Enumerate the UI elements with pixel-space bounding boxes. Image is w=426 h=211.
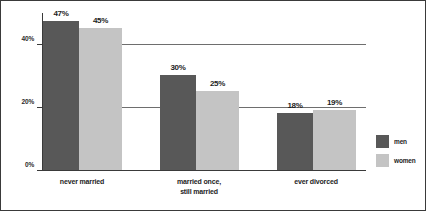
bar-men-2: 18%	[277, 113, 313, 170]
bar-group: 30%25%	[160, 12, 239, 170]
legend-label: women	[394, 157, 416, 164]
bar-women-2: 19%	[313, 110, 356, 170]
y-tick-label-0: 0%	[25, 161, 34, 168]
legend-item-women: women	[376, 154, 416, 167]
bar-value-label: 30%	[170, 63, 185, 72]
bar-men-0: 47%	[43, 21, 79, 170]
bar-women-0: 45%	[79, 28, 122, 170]
bar-value-label: 45%	[93, 16, 108, 25]
bar-group: 18%19%	[277, 12, 356, 170]
category-label: never married	[22, 177, 142, 187]
legend-swatch-men	[376, 135, 389, 148]
bar-value-label: 25%	[210, 79, 225, 88]
plot-area: 0%20%40% 47%45%30%25%18%19%	[43, 13, 366, 171]
y-tick-label-20: 20%	[22, 97, 34, 104]
bar-value-label: 18%	[287, 101, 302, 110]
bar-value-label: 19%	[327, 98, 342, 107]
category-label: married once, still married	[139, 177, 259, 196]
chart-legend: menwomen	[376, 135, 416, 173]
legend-swatch-women	[376, 154, 389, 167]
y-tick-0	[37, 170, 43, 171]
y-tick-label-40: 40%	[22, 34, 34, 41]
bar-women-1: 25%	[196, 91, 239, 170]
bar-chart-figure: 0%20%40% 47%45%30%25%18%19% never marrie…	[0, 0, 426, 211]
bar-men-1: 30%	[160, 75, 196, 170]
legend-label: men	[394, 138, 407, 145]
bar-value-label: 47%	[53, 9, 68, 18]
category-label: ever divorced	[256, 177, 376, 187]
bar-group: 47%45%	[43, 12, 122, 170]
legend-item-men: men	[376, 135, 416, 148]
x-axis-baseline	[43, 170, 366, 171]
